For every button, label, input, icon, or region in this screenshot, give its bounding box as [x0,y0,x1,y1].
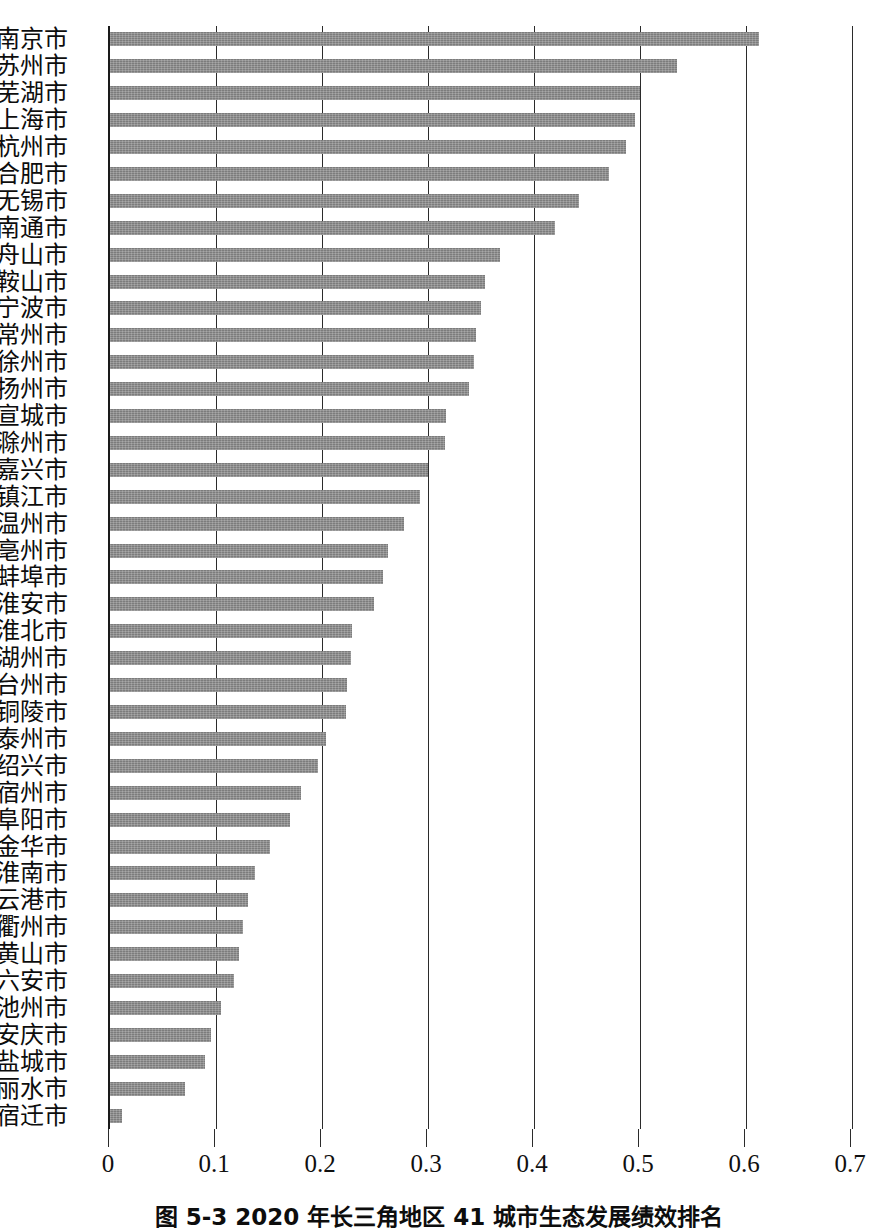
bar [110,759,318,773]
chart-row: 宿州市 [110,779,850,806]
bar [110,409,446,423]
bar [110,86,640,100]
bar [110,840,270,854]
chart-row: 蚌埠市 [110,564,850,591]
chart-row: 舟山市 [110,241,850,268]
bar [110,328,476,342]
category-label: 温州市 [0,511,68,537]
chart-row: 徐州市 [110,349,850,376]
bar [110,1001,221,1015]
bar [110,947,239,961]
category-label: 湖州市 [0,645,68,671]
bar [110,786,301,800]
x-axis-tick [320,1129,321,1147]
chart-row: 池州市 [110,994,850,1021]
chart-row: 亳州市 [110,537,850,564]
bar [110,194,579,208]
chart-row: 扬州市 [110,376,850,403]
chart-row: 绍兴市 [110,752,850,779]
bar [110,140,626,154]
chart-row: 常州市 [110,322,850,349]
bar [110,893,248,907]
chart-row: 安庆市 [110,1021,850,1048]
category-label: 六安市 [0,968,68,994]
bar [110,651,351,665]
x-axis-tick [638,1129,639,1147]
category-label: 宿迁市 [0,1103,68,1129]
chart-row: 宁波市 [110,295,850,322]
chart-row: 马鞍山市 [110,268,850,295]
x-axis-tick-label: 0.5 [622,1149,653,1179]
category-label: 嘉兴市 [0,457,68,483]
category-label: 无锡市 [0,188,68,214]
category-label: 泰州市 [0,726,68,752]
bar [110,490,420,504]
chart-row: 铜陵市 [110,699,850,726]
category-label: 安庆市 [0,1022,68,1048]
chart-row: 宿迁市 [110,1102,850,1129]
category-label: 衢州市 [0,914,68,940]
category-label: 南京市 [0,26,68,52]
gridline [852,26,853,1129]
bar [110,248,500,262]
bar [110,301,481,315]
chart-row: 黄山市 [110,941,850,968]
category-label: 扬州市 [0,376,68,402]
bar [110,1109,122,1123]
category-label: 盐城市 [0,1049,68,1075]
bar [110,1055,205,1069]
category-label: 阜阳市 [0,807,68,833]
bar [110,732,326,746]
chart-row: 湖州市 [110,645,850,672]
category-label: 淮北市 [0,618,68,644]
category-label: 滁州市 [0,430,68,456]
x-axis-tick-label: 0.7 [834,1149,865,1179]
bar [110,1028,211,1042]
category-label: 苏州市 [0,53,68,79]
category-label: 台州市 [0,672,68,698]
chart-row: 淮安市 [110,591,850,618]
category-label: 镇江市 [0,484,68,510]
chart-row: 镇江市 [110,483,850,510]
bar [110,436,445,450]
x-axis-tick [426,1129,427,1147]
bar [110,705,346,719]
category-label: 合肥市 [0,161,68,187]
chart-row: 丽水市 [110,1075,850,1102]
category-label: 亳州市 [0,538,68,564]
bar [110,678,347,692]
category-label: 池州市 [0,995,68,1021]
chart-row: 衢州市 [110,914,850,941]
category-label: 马鞍山市 [0,269,68,295]
category-label: 铜陵市 [0,699,68,725]
bar [110,355,474,369]
x-axis-tick-label: 0.2 [304,1149,335,1179]
chart-row: 合肥市 [110,161,850,188]
bar [110,32,759,46]
x-axis-tick-label: 0.3 [410,1149,441,1179]
bar [110,544,388,558]
chart-row: 南京市 [110,26,850,53]
bar [110,517,404,531]
chart-row: 温州市 [110,510,850,537]
x-axis-tick-label: 0.1 [198,1149,229,1179]
bar [110,1082,185,1096]
chart-row: 南通市 [110,214,850,241]
category-label: 金华市 [0,834,68,860]
bar [110,920,243,934]
category-label: 淮南市 [0,860,68,886]
category-label: 蚌埠市 [0,564,68,590]
bar [110,570,383,584]
category-label: 徐州市 [0,349,68,375]
chart-row: 连云港市 [110,887,850,914]
category-label: 丽水市 [0,1076,68,1102]
x-axis-tick [214,1129,215,1147]
chart-row: 上海市 [110,107,850,134]
bar [110,382,469,396]
chart-row: 芜湖市 [110,80,850,107]
category-label: 宣城市 [0,403,68,429]
x-axis-tick [108,1129,109,1147]
bar [110,275,485,289]
chart-row: 盐城市 [110,1048,850,1075]
category-label: 常州市 [0,322,68,348]
